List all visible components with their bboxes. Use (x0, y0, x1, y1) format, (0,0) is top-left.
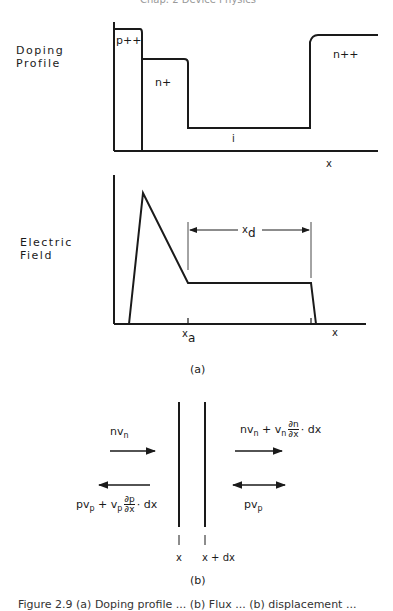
region-p-plus-plus: p++ (116, 34, 141, 47)
tick-sub: a (188, 331, 195, 345)
ylabel-line: Profile (16, 57, 64, 70)
field-xlabel: x (332, 327, 338, 338)
eq-sub: p (258, 504, 263, 513)
flux-p-right: pvp (244, 498, 263, 513)
region-intrinsic: i (232, 133, 235, 144)
doping-xlabel: x (326, 158, 332, 169)
eq-text: · dx (301, 423, 322, 436)
doping-profile-plot (114, 22, 378, 151)
figure-caption: Figure 2.9 (a) Doping profile ... (b) Fl… (18, 598, 356, 611)
region-n-plus: n+ (155, 76, 171, 89)
flux-p-left: pvp + vp∂p∂x· dx (76, 495, 157, 514)
derivative-fraction: ∂n∂x (288, 420, 298, 439)
position-x-dx-label: x + dx (202, 552, 235, 563)
field-ylabel: ElectricField (20, 236, 73, 262)
eq-text: pv (244, 498, 258, 511)
eq-text: · dx (137, 498, 158, 511)
ylabel-line: Electric (20, 236, 73, 249)
position-x-label: x (176, 552, 182, 563)
electric-field-plot (114, 175, 366, 324)
doping-ylabel: DopingProfile (16, 44, 64, 70)
panel-b-label: (b) (190, 574, 206, 587)
flux-n-left: nvn (110, 425, 129, 440)
eq-text: pv (76, 498, 90, 511)
derivative-fraction: ∂p∂x (124, 495, 134, 514)
eq-text: nv (240, 423, 253, 436)
frac-den: ∂x (124, 505, 134, 514)
region-n-plus-plus: n++ (333, 48, 358, 61)
eq-sub: p (117, 504, 122, 513)
span-sub: d (248, 226, 256, 240)
ylabel-line: Field (20, 249, 73, 262)
eq-sub: n (123, 431, 128, 440)
xa-tick-label: xa (182, 326, 195, 340)
eq-text: + v (259, 423, 282, 436)
flux-n-right: nvn + vn∂n∂x· dx (240, 420, 321, 439)
frac-den: ∂x (288, 430, 298, 439)
eq-text: + v (95, 498, 118, 511)
eq-sub: n (281, 429, 286, 438)
eq-text: nv (110, 425, 123, 438)
panel-a-label: (a) (190, 363, 205, 376)
ylabel-line: Doping (16, 44, 64, 57)
depletion-width-label: xd (242, 222, 256, 236)
